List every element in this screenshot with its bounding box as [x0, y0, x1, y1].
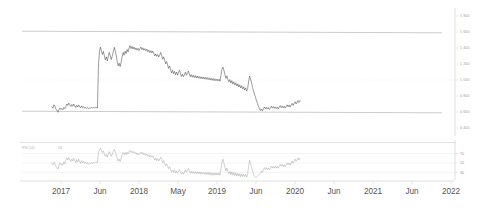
price-tick-label: 0 400	[460, 126, 470, 130]
price-tick-label: 1 400	[460, 46, 470, 50]
price-tick-label: 0 600	[460, 110, 470, 114]
price-y-ticks: 1 8001 6001 4001 2001 0000 8000 6000 400	[455, 14, 470, 130]
x-axis-svg: 2017Jun2018May2019Jun2020Jun2021Jun2022	[0, 178, 487, 212]
x-tick-label: Jun	[405, 187, 419, 196]
x-tick-label: 2019	[208, 187, 227, 196]
rsi-tick-label: 70	[460, 152, 464, 156]
rsi-panel: RSI (14) 58 705030	[0, 140, 487, 182]
price-tick-label: 0 800	[460, 94, 470, 98]
rsi-tick-label: 30	[460, 171, 464, 175]
x-tick-label: 2017	[52, 187, 71, 196]
x-tick-label: 2022	[442, 187, 461, 196]
price-tick-label: 1 800	[460, 14, 470, 18]
x-tick-label: Jun	[93, 187, 107, 196]
x-tick-label: Jun	[249, 187, 263, 196]
x-tick-label: May	[170, 187, 186, 196]
rsi-y-ticks: 705030	[455, 152, 464, 175]
financial-chart: 1 8001 6001 4001 2001 0000 8000 6000 400…	[0, 0, 487, 212]
rsi-svg: RSI (14) 58 705030	[0, 140, 487, 182]
rsi-gridlines	[22, 153, 455, 172]
price-panel: 1 8001 6001 4001 2001 0000 8000 6000 400	[0, 0, 487, 140]
price-svg: 1 8001 6001 4001 2001 0000 8000 6000 400	[0, 0, 487, 140]
x-axis-labels: 2017Jun2018May2019Jun2020Jun2021Jun2022	[52, 187, 461, 196]
price-reference-line	[22, 31, 442, 33]
x-tick-label: Jun	[327, 187, 341, 196]
rsi-tick-label: 50	[460, 161, 464, 165]
x-tick-label: 2020	[286, 187, 305, 196]
x-axis-panel: 2017Jun2018May2019Jun2020Jun2021Jun2022	[0, 178, 487, 212]
price-tick-label: 1 200	[460, 62, 470, 66]
rsi-indicator-value: 58	[58, 146, 62, 150]
x-tick-label: 2021	[364, 187, 383, 196]
price-series-line	[52, 46, 300, 113]
rsi-indicator-label: RSI (14)	[22, 146, 35, 150]
price-tick-label: 1 600	[460, 30, 470, 34]
price-reference-lines	[22, 31, 442, 113]
x-axis-ticks	[61, 181, 451, 184]
price-reference-line	[22, 111, 442, 113]
price-tick-label: 1 000	[460, 78, 470, 82]
x-tick-label: 2018	[130, 187, 149, 196]
